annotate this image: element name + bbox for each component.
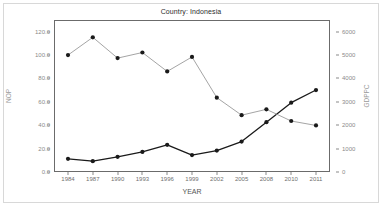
x-axis-tick-label: 1990 <box>111 176 124 182</box>
x-axis-tick-label: 1984 <box>61 176 74 182</box>
x-axis-tick-mark <box>216 172 217 175</box>
data-point-marker <box>314 88 318 92</box>
y-axis-left-tick-mark <box>47 31 50 32</box>
x-axis-tick-label: 1999 <box>185 176 198 182</box>
data-point-marker <box>165 69 169 73</box>
y-axis-right-tick-label: 6000 <box>342 29 355 35</box>
chart-title: Country: Indonesia <box>0 8 382 15</box>
x-axis-tick-mark <box>266 172 267 175</box>
data-point-marker <box>91 35 95 39</box>
data-point-marker <box>140 50 144 54</box>
y-axis-right-label: GDPPC <box>363 84 370 107</box>
y-axis-right-tick-mark <box>336 55 339 56</box>
x-axis-tick-mark <box>92 172 93 175</box>
y-axis-right-tick-mark <box>336 148 339 149</box>
x-axis-tick-mark <box>291 172 292 175</box>
x-axis-tick-mark <box>316 172 317 175</box>
y-axis-left-tick-mark <box>47 55 50 56</box>
data-point-marker <box>240 140 244 144</box>
x-axis-label: YEAR <box>54 188 330 195</box>
plot-area <box>54 20 330 172</box>
y-axis-right-tick-label: 0 <box>342 169 345 175</box>
y-axis-left-ticks: 0.020.040.060.080.0100.0120.0 <box>18 20 50 172</box>
data-point-marker <box>289 101 293 105</box>
y-axis-right-tick-mark <box>336 125 339 126</box>
x-axis-tick-mark <box>167 172 168 175</box>
data-point-marker <box>264 120 268 124</box>
data-point-marker <box>116 155 120 159</box>
data-point-marker <box>264 107 268 111</box>
x-axis-tick-label: 2008 <box>260 176 273 182</box>
y-axis-right-tick-mark <box>336 78 339 79</box>
series-gdppc <box>66 35 318 127</box>
series-nop <box>66 88 318 163</box>
x-axis-tick-label: 2002 <box>210 176 223 182</box>
series-line <box>68 90 316 161</box>
y-axis-right-tick-label: 4000 <box>342 75 355 81</box>
x-axis-tick-mark <box>241 172 242 175</box>
series-canvas <box>54 20 330 172</box>
data-point-marker <box>215 149 219 153</box>
y-axis-left-tick-mark <box>47 172 50 173</box>
x-axis-tick-label: 1996 <box>161 176 174 182</box>
data-point-marker <box>190 153 194 157</box>
y-axis-right-tick-label: 2000 <box>342 122 355 128</box>
x-axis-tick-mark <box>117 172 118 175</box>
data-point-marker <box>240 113 244 117</box>
x-axis-tick-label: 1987 <box>86 176 99 182</box>
y-axis-left-tick-mark <box>47 78 50 79</box>
y-axis-right-tick-mark <box>336 172 339 173</box>
data-point-marker <box>66 157 70 161</box>
data-point-marker <box>91 159 95 163</box>
x-axis-tick-label: 1993 <box>136 176 149 182</box>
data-point-marker <box>289 119 293 123</box>
y-axis-left-tick-mark <box>47 125 50 126</box>
data-point-marker <box>66 53 70 57</box>
x-axis-ticks: 1984198719901993199619992002200520082010… <box>54 176 330 188</box>
y-axis-left-tick-mark <box>47 148 50 149</box>
x-axis-tick-mark <box>68 172 69 175</box>
x-axis-tick-label: 2011 <box>310 176 323 182</box>
x-axis-tick-label: 2010 <box>285 176 298 182</box>
x-axis-tick-label: 2005 <box>235 176 248 182</box>
data-point-marker <box>314 123 318 127</box>
data-point-marker <box>215 96 219 100</box>
data-point-marker <box>165 143 169 147</box>
y-axis-left-label: NOP <box>5 89 12 103</box>
y-axis-right-tick-label: 1000 <box>342 146 355 152</box>
y-axis-right-tick-label: 5000 <box>342 52 355 58</box>
y-axis-right-tick-mark <box>336 31 339 32</box>
data-point-marker <box>190 55 194 59</box>
data-point-marker <box>116 56 120 60</box>
x-axis-tick-mark <box>142 172 143 175</box>
data-point-marker <box>140 150 144 154</box>
y-axis-right-tick-label: 3000 <box>342 99 355 105</box>
x-axis-tick-mark <box>192 172 193 175</box>
chart-figure: Country: Indonesia 0.020.040.060.080.010… <box>0 0 382 206</box>
y-axis-right-tick-mark <box>336 101 339 102</box>
y-axis-left-tick-mark <box>47 101 50 102</box>
